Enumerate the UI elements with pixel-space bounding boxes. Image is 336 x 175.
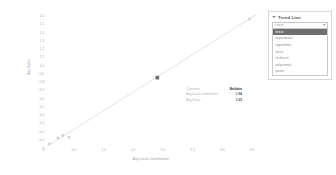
trend-line-option-logarithmic[interactable]: logarithmic [273, 42, 327, 49]
y-axis-tick-label: 0.5 [22, 105, 44, 109]
y-axis-tick-label: 1.3 [22, 39, 44, 43]
y-axis-tick-label: 0.4 [22, 113, 44, 117]
y-axis-tick-label: 1.2 [22, 47, 44, 51]
y-axis-tick-label: 1.5 [22, 22, 44, 26]
tooltip-row: Avg Sales1.03 [186, 98, 242, 103]
trend-line-option-linear[interactable]: linear [273, 29, 327, 36]
plot-area [44, 14, 262, 148]
tooltip-row-label: Avg Sales [186, 98, 204, 103]
y-axis-tick-labels: 1.61.51.41.31.21.11.00.90.80.70.60.50.40… [22, 14, 44, 150]
trend-line-path [47, 14, 257, 146]
data-point[interactable] [56, 137, 59, 140]
x-axis-tick-label: 0.5 [71, 148, 75, 152]
data-point[interactable] [48, 143, 51, 146]
data-point[interactable] [61, 134, 64, 137]
trend-line-panel: Trend Line linear linearexponentiallogar… [268, 11, 332, 80]
chevron-down-icon[interactable] [272, 16, 276, 18]
y-axis-tick-label: 0.6 [22, 97, 44, 101]
chevron-down-icon[interactable] [323, 24, 325, 26]
trend-line-option-technical[interactable]: technical [273, 55, 327, 62]
chart-application: Avg Sales 1.61.51.41.31.21.11.00.90.80.7… [0, 0, 336, 175]
trend-line-option-exponential[interactable]: exponential [273, 35, 327, 42]
y-axis-tick-label: 1.4 [22, 31, 44, 35]
trend-line-panel-title: Trend Line [278, 15, 301, 20]
x-axis-tick-label: 3.5 [250, 148, 254, 152]
trend-line-option-power[interactable]: power [273, 68, 327, 75]
y-axis-tick-label: 0.2 [22, 130, 44, 134]
trend-line-panel-header[interactable]: Trend Line [269, 12, 331, 22]
x-axis-tick-label: 2.0 [161, 148, 165, 152]
x-axis-title: Avg Local Contribution [96, 157, 206, 161]
y-axis-tick-label: 0.3 [22, 121, 44, 125]
x-axis-tick-label: 1.0 [101, 148, 105, 152]
y-axis-tick-label: 0.9 [22, 72, 44, 76]
y-axis-tick-label: 0.7 [22, 88, 44, 92]
tooltip-row-value: 1.03 [236, 98, 242, 103]
plot-svg [44, 14, 262, 148]
y-axis-tick-label: 1.6 [22, 14, 44, 18]
y-axis-tick-label: 1.1 [22, 55, 44, 59]
data-point[interactable] [248, 18, 251, 21]
trend-line-option-loess[interactable]: loess [273, 48, 327, 55]
trend-line [47, 14, 257, 146]
scatter-chart: Avg Sales 1.61.51.41.31.21.11.00.90.80.7… [0, 0, 268, 175]
trend-line-type-selected-value: linear [276, 23, 284, 27]
x-axis-tick-label: 2.5 [190, 148, 194, 152]
x-axis-tick-labels: 00.51.01.52.02.53.03.5 [30, 148, 262, 156]
y-axis-tick-label: 0.1 [22, 138, 44, 142]
data-point[interactable] [68, 136, 71, 139]
trend-line-type-option-list[interactable]: linearexponentiallogarithmicloesstechnic… [272, 29, 328, 76]
trend-line-option-polynomial[interactable]: polynomial [273, 61, 327, 68]
x-axis-tick-label: 3.0 [220, 148, 224, 152]
x-axis-tick-label: 1.5 [131, 148, 135, 152]
trend-line-type-select[interactable]: linear [272, 22, 328, 29]
y-axis-tick-label: 0.8 [22, 80, 44, 84]
y-axis-tick-label: 1.0 [22, 64, 44, 68]
data-point-tooltip: CustomerBaldwinAvg Local Contribution1.9… [186, 86, 242, 104]
x-axis-tick-label: 0 [43, 148, 45, 152]
data-point[interactable] [156, 76, 160, 80]
